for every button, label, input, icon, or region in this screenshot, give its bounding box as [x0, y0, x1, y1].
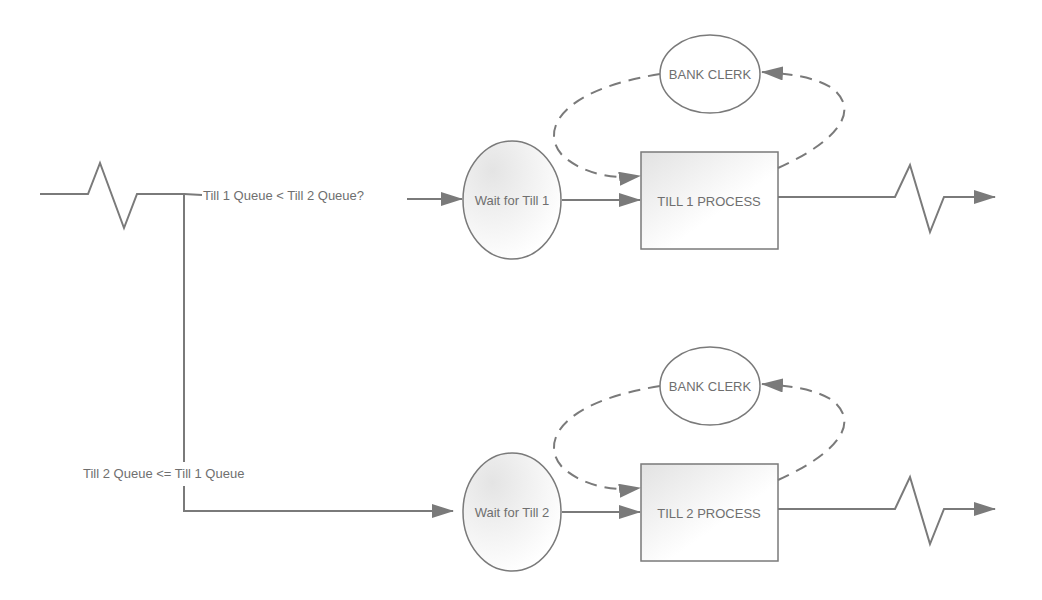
branch-label-top: Till 1 Queue < Till 2 Queue?	[203, 188, 364, 203]
arrival-zigzag-icon	[40, 163, 202, 228]
queue-label-till-1: Wait for Till 1	[475, 193, 550, 208]
queue-diagram: Till 1 Queue < Till 2 Queue? Till 2 Queu…	[0, 0, 1042, 600]
departure-zigzag-icon	[778, 165, 995, 232]
branch-connector	[184, 194, 453, 511]
resource-label-bank-clerk-1: BANK CLERK	[669, 67, 752, 82]
process-label-till-1: TILL 1 PROCESS	[657, 194, 761, 209]
departure-zigzag-icon	[778, 477, 995, 544]
lane-till-2: Wait for Till 2 TILL 2 PROCESS BANK CLER…	[463, 347, 995, 571]
process-label-till-2: TILL 2 PROCESS	[657, 506, 761, 521]
lane-till-1: Wait for Till 1 TILL 1 PROCESS BANK CLER…	[463, 35, 995, 259]
resource-label-bank-clerk-2: BANK CLERK	[669, 379, 752, 394]
queue-label-till-2: Wait for Till 2	[475, 505, 550, 520]
branch-label-bottom: Till 2 Queue <= Till 1 Queue	[83, 466, 244, 481]
